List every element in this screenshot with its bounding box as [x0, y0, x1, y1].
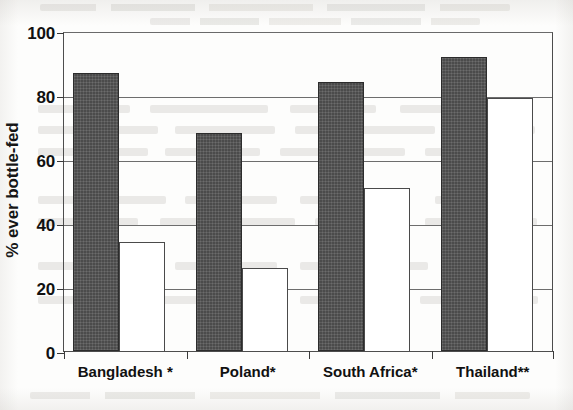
bar-chart: % ever bottle-fed 020406080100 Banglades…	[0, 0, 573, 410]
y-tick-label-40: 40	[36, 217, 55, 234]
bar-hollow-0	[119, 242, 165, 351]
y-tick-60	[57, 161, 64, 162]
y-tick-0	[57, 353, 64, 354]
y-tick-80	[57, 97, 64, 98]
x-tick-end-0	[64, 351, 65, 359]
y-tick-label-100: 100	[27, 25, 55, 42]
y-tick-label-80: 80	[36, 89, 55, 106]
y-tick-label-20: 20	[36, 281, 55, 298]
x-axis-label-0: Bangladesh *	[78, 364, 173, 379]
plot-area: 020406080100 Bangladesh *Poland*South Af…	[63, 32, 553, 352]
y-tick-label-60: 60	[36, 153, 55, 170]
x-tick-end-1	[553, 351, 554, 359]
bar-filled-3	[441, 57, 487, 351]
bar-hollow-1	[242, 268, 288, 351]
x-axis-label-2: South Africa*	[323, 364, 417, 379]
x-tick-2	[309, 351, 310, 359]
y-tick-20	[57, 289, 64, 290]
bar-filled-0	[73, 73, 119, 351]
y-axis-title: % ever bottle-fed	[0, 40, 28, 340]
y-axis-title-label: % ever bottle-fed	[3, 122, 23, 257]
x-axis-label-3: Thailand**	[456, 364, 529, 379]
bar-hollow-3	[487, 98, 533, 351]
bar-filled-2	[318, 82, 364, 351]
x-tick-1	[187, 351, 188, 359]
bar-hollow-2	[364, 188, 410, 351]
y-tick-label-0: 0	[46, 345, 55, 362]
bar-filled-1	[196, 133, 242, 351]
x-tick-3	[432, 351, 433, 359]
x-axis-label-1: Poland*	[220, 364, 276, 379]
y-tick-40	[57, 225, 64, 226]
y-tick-100	[57, 33, 64, 34]
